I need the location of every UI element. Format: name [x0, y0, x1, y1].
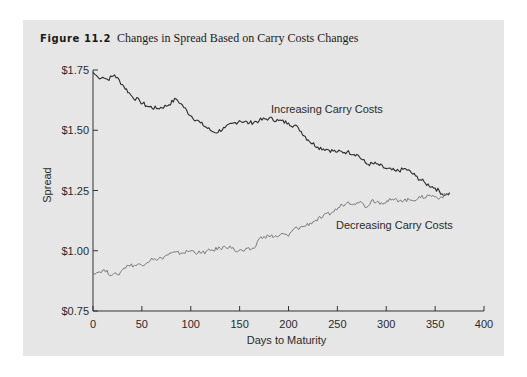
y-tick-label: $1.25 — [61, 185, 89, 197]
y-tick-label: $1.00 — [61, 245, 89, 257]
series-label-increasing: Increasing Carry Costs — [271, 103, 383, 115]
series-label-decreasing: Decreasing Carry Costs — [336, 219, 453, 231]
x-tick-label: 200 — [279, 318, 297, 330]
y-tick-label: $0.75 — [61, 305, 89, 317]
y-tick-label: $1.75 — [61, 64, 89, 76]
x-tick-label: 250 — [328, 318, 346, 330]
series-line-increasing — [93, 72, 450, 195]
series-line-decreasing — [93, 193, 450, 276]
x-tick-label: 400 — [475, 318, 493, 330]
x-tick-label: 150 — [230, 318, 248, 330]
x-tick-label: 0 — [90, 318, 96, 330]
spread-chart: $0.75$1.00$1.25$1.50$1.75 05010015020025… — [0, 0, 527, 377]
x-tick-label: 350 — [426, 318, 444, 330]
x-tick-label: 50 — [136, 318, 148, 330]
y-axis-label: Spread — [41, 167, 53, 202]
y-tick-label: $1.50 — [61, 124, 89, 136]
x-tick-label: 300 — [377, 318, 395, 330]
x-tick-label: 100 — [182, 318, 200, 330]
x-ticks: 050100150200250300350400 — [90, 306, 493, 330]
x-axis-label: Days to Maturity — [247, 334, 327, 346]
